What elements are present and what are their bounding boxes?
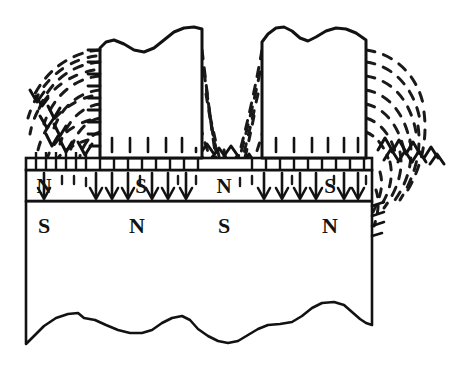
right-pole-piece (262, 27, 366, 158)
underlayer-label-s-2: S (218, 213, 230, 238)
domain-label-n-2: N (216, 174, 231, 198)
domain-label-s-1: S (135, 174, 147, 198)
recording-layer-band (26, 170, 372, 201)
underlayer-label-s-1: S (38, 213, 50, 238)
domain-label-n-1: N (36, 174, 51, 198)
underlayer-label-n-2: N (322, 213, 338, 238)
underlayer-label-n-1: N (129, 213, 145, 238)
figure-container: N S N S S N S N (0, 0, 455, 376)
diagram-svg: N S N S S N S N (0, 0, 455, 376)
domain-label-s-2: S (324, 174, 336, 198)
